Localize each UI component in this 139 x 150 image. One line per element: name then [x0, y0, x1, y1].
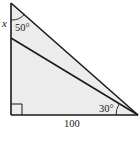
triangle-diagram: x 50° 30° 100 [0, 0, 139, 150]
top-angle-label: 50° [15, 22, 30, 33]
bottom-right-angle-label: 30° [99, 103, 114, 114]
side-label-x: x [1, 17, 7, 29]
base-length-label: 100 [64, 118, 80, 129]
